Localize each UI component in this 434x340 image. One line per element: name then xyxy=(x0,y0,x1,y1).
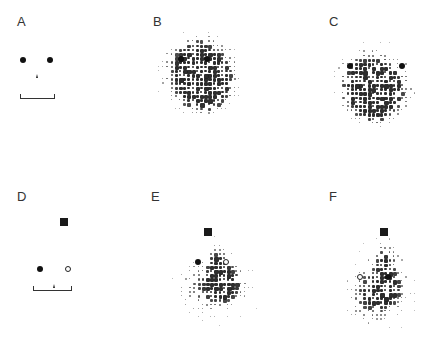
mouth-bracket xyxy=(33,286,72,291)
square-marker xyxy=(60,218,68,226)
mouth-bracket xyxy=(20,94,55,99)
panel-e: E xyxy=(140,170,290,340)
fixation-cloud-f xyxy=(334,230,424,330)
panel-label-d: D xyxy=(17,189,26,204)
open-eye-circle xyxy=(223,259,229,265)
open-eye-circle xyxy=(357,274,363,280)
right-eye-dot xyxy=(47,57,53,63)
left-eye-dot xyxy=(178,56,184,62)
panel-label-f: F xyxy=(329,189,337,204)
fixation-cloud-b xyxy=(158,32,242,116)
panel-label-e: E xyxy=(151,189,160,204)
panel-label-a: A xyxy=(17,14,26,29)
filled-eye-dot xyxy=(385,274,391,280)
fixation-cloud-e xyxy=(164,228,264,328)
fixation-cloud-c xyxy=(334,42,418,128)
panel-label-c: C xyxy=(329,14,338,29)
filled-eye-dot xyxy=(195,259,201,265)
open-eye-circle xyxy=(65,266,71,272)
left-eye-dot xyxy=(20,57,26,63)
panel-d: D xyxy=(0,170,140,340)
panel-f: F xyxy=(290,170,434,340)
filled-eye-dot xyxy=(37,266,43,272)
right-eye-dot xyxy=(399,63,405,69)
panel-label-b: B xyxy=(153,14,162,29)
right-eye-dot xyxy=(204,56,210,62)
panel-b: B xyxy=(140,0,290,170)
nose-triangle-icon xyxy=(36,74,38,78)
panel-a: A xyxy=(0,0,140,170)
panel-c: C xyxy=(290,0,434,170)
left-eye-dot xyxy=(347,63,353,69)
